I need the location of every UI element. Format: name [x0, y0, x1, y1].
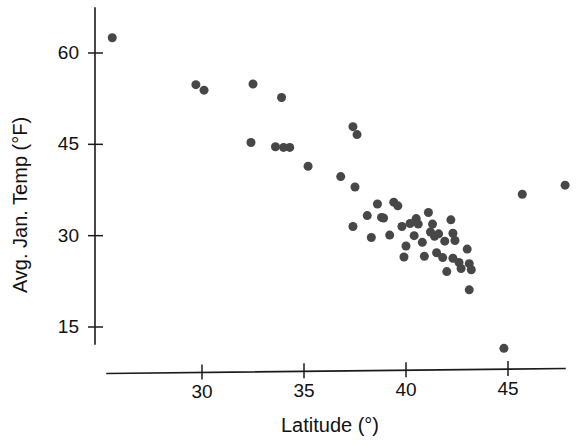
- data-point: [450, 236, 459, 245]
- data-point: [414, 220, 423, 229]
- data-point: [277, 93, 286, 102]
- data-point: [348, 222, 357, 231]
- data-point: [285, 143, 294, 152]
- data-point: [467, 265, 476, 274]
- y-axis-group: 15304560: [58, 8, 103, 344]
- data-point: [424, 208, 433, 217]
- data-point: [428, 220, 437, 229]
- data-points-group: [108, 33, 570, 353]
- x-axis-group: 30354045: [107, 361, 565, 402]
- data-point: [200, 86, 209, 95]
- data-point: [367, 233, 376, 242]
- y-tick-label: 15: [58, 316, 79, 337]
- data-point: [351, 182, 360, 191]
- data-point: [191, 80, 200, 89]
- data-point: [397, 222, 406, 231]
- data-point: [434, 229, 443, 238]
- data-point: [379, 214, 388, 223]
- data-point: [442, 267, 451, 276]
- scatter-plot-figure: 15304560 30354045 Latitude (°) Avg. Jan.…: [0, 0, 587, 445]
- data-point: [271, 142, 280, 151]
- data-point: [446, 215, 455, 224]
- data-point: [304, 162, 313, 171]
- data-point: [373, 200, 382, 209]
- y-tick-group: 15304560: [58, 42, 103, 337]
- data-point: [418, 238, 427, 247]
- x-tick-label: 40: [395, 379, 416, 400]
- data-point: [440, 237, 449, 246]
- data-point: [246, 138, 255, 147]
- x-tick-label: 30: [191, 381, 212, 402]
- data-point: [438, 253, 447, 262]
- y-tick-label: 30: [58, 225, 79, 246]
- data-point: [385, 231, 394, 240]
- data-point: [457, 264, 466, 273]
- y-tick-label: 45: [58, 133, 79, 154]
- data-point: [108, 33, 117, 42]
- y-tick-label: 60: [58, 42, 79, 63]
- x-tick-label: 45: [497, 378, 518, 399]
- data-point: [249, 80, 258, 89]
- data-point: [463, 245, 472, 254]
- data-point: [465, 285, 474, 294]
- x-axis-title: Latitude (°): [281, 414, 379, 436]
- data-point: [393, 201, 402, 210]
- data-point: [518, 190, 527, 199]
- data-point: [499, 344, 508, 353]
- y-axis-title: Avg. Jan. Temp (°F): [9, 117, 31, 293]
- data-point: [399, 252, 408, 261]
- data-point: [410, 231, 419, 240]
- data-point: [561, 181, 570, 190]
- x-tick-group: 30354045: [191, 361, 518, 402]
- data-point: [402, 242, 411, 251]
- plot-canvas: 15304560 30354045 Latitude (°) Avg. Jan.…: [0, 0, 587, 445]
- x-axis-line: [107, 369, 565, 374]
- data-point: [420, 252, 429, 261]
- data-point: [336, 172, 345, 181]
- x-tick-label: 35: [293, 380, 314, 401]
- data-point: [348, 122, 357, 131]
- data-point: [353, 130, 362, 139]
- data-point: [363, 211, 372, 220]
